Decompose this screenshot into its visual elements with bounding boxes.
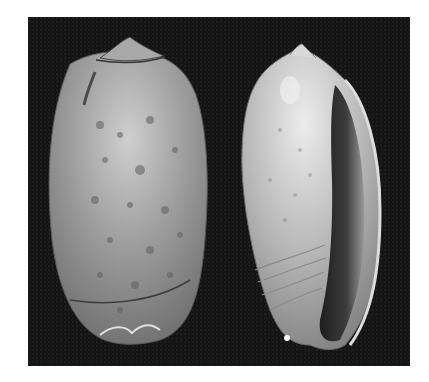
- left-shell: [49, 37, 207, 344]
- shells-illustration: [0, 0, 429, 382]
- right-shell: [242, 44, 380, 350]
